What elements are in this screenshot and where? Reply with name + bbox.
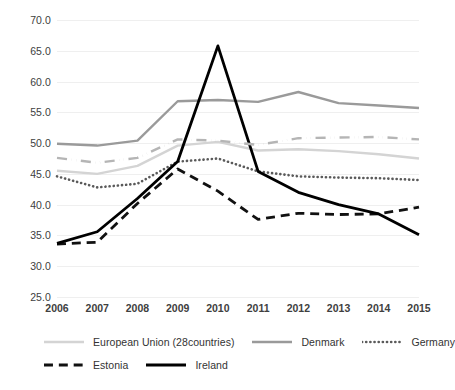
y-axis-tick-label: 60.0 [5,76,51,88]
x-axis-tick-label: 2009 [166,302,189,314]
x-axis-tick-label: 2008 [126,302,149,314]
legend-item-estonia[interactable]: Estonia [44,359,128,371]
series-line-germany [57,159,419,188]
series-line-estonia [57,169,419,244]
x-axis-tick-label: 2015 [407,302,430,314]
legend-label: Ireland [195,359,227,371]
legend-label: Estonia [93,359,128,371]
x-axis-tick-label: 2007 [86,302,109,314]
legend-swatch-icon [146,359,186,371]
y-axis-tick-label: 50.0 [5,137,51,149]
legend-swatch-icon [44,359,84,371]
legend-item-ireland[interactable]: Ireland [146,359,227,371]
legend-row: European Union (28countries)DenmarkGerma… [44,330,424,353]
legend-item-germany[interactable]: Germany [362,336,455,348]
y-axis-tick-label: 55.0 [5,106,51,118]
series-line-european-union-28countries [57,142,419,174]
gridline [57,297,419,298]
legend-swatch-icon [252,336,292,348]
y-axis-tick-label: 30.0 [5,260,51,272]
legend-row: EstoniaIreland [44,353,424,376]
x-axis-tick-label: 2006 [45,302,68,314]
y-axis-tick-label: 65.0 [5,45,51,57]
x-axis-tick-label: 2011 [247,302,270,314]
x-axis-tick-label: 2012 [287,302,310,314]
chart-legend: European Union (28countries)DenmarkGerma… [44,330,424,376]
legend-label: European Union (28countries) [93,336,234,348]
y-axis-tick-label: 40.0 [5,199,51,211]
y-axis-tick-label: 70.0 [5,14,51,26]
series-layer [57,20,419,297]
legend-item-denmark[interactable]: Denmark [252,336,344,348]
y-axis-tick-label: 35.0 [5,229,51,241]
series-line-unlabeled-5 [57,137,419,163]
legend-label: Germany [411,336,455,348]
y-axis-tick-label: 45.0 [5,168,51,180]
plot-area [57,20,419,297]
legend-swatch-icon [44,336,84,348]
legend-item-european-union-28countries[interactable]: European Union (28countries) [44,336,234,348]
x-axis-tick-label: 2013 [327,302,350,314]
legend-swatch-icon [362,336,402,348]
x-axis-tick-label: 2014 [367,302,390,314]
y-axis-tick-label: 25.0 [5,291,51,303]
x-axis-tick-label: 2010 [206,302,229,314]
legend-label: Denmark [301,336,344,348]
